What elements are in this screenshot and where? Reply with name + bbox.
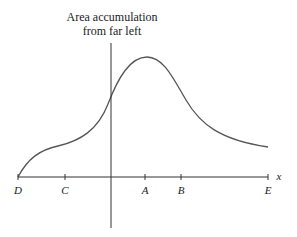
density-curve <box>18 57 268 177</box>
distribution-diagram: Area accumulation from far left D C A B … <box>0 0 297 237</box>
point-label-a: A <box>141 184 149 196</box>
x-axis-label: x <box>276 170 282 182</box>
annotation-line2: from far left <box>83 24 142 38</box>
point-label-d: D <box>13 184 22 196</box>
point-label-e: E <box>264 184 272 196</box>
point-label-b: B <box>178 184 185 196</box>
annotation-line1: Area accumulation <box>67 10 158 24</box>
point-label-c: C <box>61 184 69 196</box>
